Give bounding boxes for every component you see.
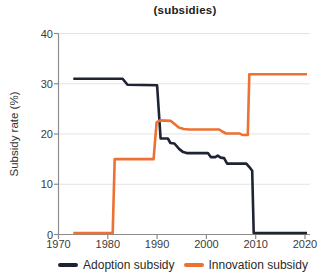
innovation-subsidy-line-swatch	[184, 263, 204, 266]
x-tick-label-1990: 1990	[140, 238, 174, 250]
y-tick-label-0: 0	[21, 229, 53, 241]
y-tick-label-40: 40	[21, 28, 53, 40]
x-tick-label-2000: 2000	[189, 238, 223, 250]
legend-item-innovation-subsidy: Innovation subsidy	[184, 258, 308, 272]
adoption-subsidy-line-swatch	[58, 263, 78, 266]
chart-page: (subsidies) Subsidy rate (%) 19701980199…	[0, 0, 322, 277]
y-tick-label-10: 10	[21, 178, 53, 190]
x-tick-label-1980: 1980	[91, 238, 125, 250]
legend: Adoption subsidy Innovation subsidy	[55, 257, 311, 273]
x-tick-label-2010: 2010	[239, 238, 273, 250]
legend-label-adoption-subsidy: Adoption subsidy	[83, 258, 174, 272]
legend-label-innovation-subsidy: Innovation subsidy	[209, 258, 308, 272]
y-tick-label-30: 30	[21, 78, 53, 90]
x-tick-label-2020: 2020	[288, 238, 322, 250]
y-tick-label-20: 20	[21, 128, 53, 140]
adoption-subsidy-line	[73, 79, 307, 233]
legend-item-adoption-subsidy: Adoption subsidy	[58, 258, 174, 272]
